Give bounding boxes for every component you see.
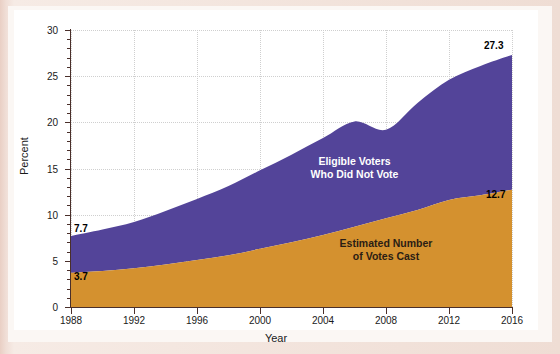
datapoint-label-votes-1988: 3.7	[74, 271, 88, 282]
y-axis-tick-label: 20	[32, 117, 58, 128]
page-root: 0510152025301988199219962000200420082012…	[0, 0, 560, 354]
y-axis-tick-label: 25	[32, 71, 58, 82]
x-axis-tick	[197, 308, 198, 314]
y-axis-tick-minor	[67, 104, 71, 105]
y-axis-tick-minor	[67, 178, 71, 179]
y-axis-tick-label: 10	[32, 209, 58, 220]
y-axis-tick-minor	[67, 58, 71, 59]
x-axis-tick	[449, 308, 450, 314]
y-axis-tick-major	[65, 169, 71, 170]
y-axis-tick-minor	[67, 159, 71, 160]
x-axis-tick	[71, 308, 72, 314]
x-axis-line	[70, 307, 513, 308]
x-axis-tick-label: 2016	[501, 315, 523, 326]
y-axis-tick-major	[65, 122, 71, 123]
x-axis-tick-label: 2008	[375, 315, 397, 326]
y-axis-tick-label: 5	[32, 255, 58, 266]
y-axis-tick-minor	[67, 132, 71, 133]
series-label-eligible-voters: Eligible Voters Who Did Not Vote	[295, 155, 415, 181]
x-axis-tick-label: 2000	[249, 315, 271, 326]
gridline-vertical	[512, 30, 513, 307]
chart-canvas: 0510152025301988199219962000200420082012…	[14, 10, 538, 330]
y-axis-tick-minor	[67, 205, 71, 206]
y-axis-tick-minor	[67, 113, 71, 114]
stacked-area-series	[71, 30, 512, 307]
x-axis-tick	[512, 308, 513, 314]
y-axis-tick-major	[65, 215, 71, 216]
y-axis-tick-minor	[67, 67, 71, 68]
x-axis-tick-label: 1996	[186, 315, 208, 326]
x-axis-tick	[386, 308, 387, 314]
y-axis-tick-minor	[67, 95, 71, 96]
x-axis-tick	[323, 308, 324, 314]
y-axis-tick-label: 0	[32, 302, 58, 313]
y-axis-tick-minor	[67, 48, 71, 49]
y-axis-tick-label: 30	[32, 25, 58, 36]
x-axis-tick-label: 2012	[438, 315, 460, 326]
y-axis-tick-minor	[67, 187, 71, 188]
y-axis-tick-major	[65, 76, 71, 77]
datapoint-label-total-2016: 27.3	[484, 40, 503, 51]
y-axis-tick-minor	[67, 196, 71, 197]
y-axis-tick-minor	[67, 270, 71, 271]
x-axis-tick-label: 1992	[123, 315, 145, 326]
y-axis-tick-minor	[67, 242, 71, 243]
series-label-line1: Estimated Number	[326, 237, 446, 250]
y-axis-tick-major	[65, 30, 71, 31]
series-label-votes-cast: Estimated Number of Votes Cast	[326, 237, 446, 263]
y-axis-tick-minor	[67, 252, 71, 253]
y-axis-tick-label: 15	[32, 163, 58, 174]
y-axis-tick-minor	[67, 141, 71, 142]
x-axis-tick-label: 2004	[312, 315, 334, 326]
y-axis-tick-minor	[67, 39, 71, 40]
y-axis-tick-minor	[67, 85, 71, 86]
series-label-line2: Who Did Not Vote	[295, 168, 415, 181]
y-axis-tick-minor	[67, 289, 71, 290]
y-axis-tick-minor	[67, 224, 71, 225]
y-axis-tick-minor	[67, 279, 71, 280]
y-axis-tick-minor	[67, 233, 71, 234]
series-label-line2: of Votes Cast	[326, 250, 446, 263]
y-axis-tick-minor	[67, 150, 71, 151]
y-axis-tick-minor	[67, 298, 71, 299]
datapoint-label-votes-2016: 12.7	[486, 189, 505, 200]
chart-plot-area	[71, 30, 512, 307]
y-axis-title: Percent	[18, 137, 30, 175]
datapoint-label-total-1988: 7.7	[74, 223, 88, 234]
x-axis-tick-label: 1988	[60, 315, 82, 326]
x-axis-tick	[260, 308, 261, 314]
y-axis-tick-major	[65, 261, 71, 262]
series-label-line1: Eligible Voters	[295, 155, 415, 168]
x-axis-title: Year	[14, 332, 538, 344]
x-axis-tick	[134, 308, 135, 314]
